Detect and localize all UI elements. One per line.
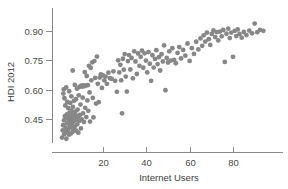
scatter-point	[131, 76, 136, 81]
scatter-point	[154, 48, 159, 53]
scatter-point	[162, 43, 167, 48]
scatter-point	[158, 68, 163, 73]
scatter-point	[70, 68, 75, 73]
scatter-point	[252, 21, 257, 26]
scatter-point	[170, 46, 175, 51]
y-axis-title: HDI 2012	[5, 62, 16, 102]
scatter-point	[100, 86, 105, 91]
scatter-point	[84, 74, 89, 79]
scatter-point	[183, 53, 188, 58]
scatter-point	[93, 76, 98, 81]
scatter-point	[144, 58, 149, 63]
x-tick-label: 20	[98, 157, 109, 168]
y-axis-ticks	[46, 32, 53, 120]
scatter-point	[76, 130, 81, 135]
scatter-point	[187, 59, 192, 64]
scatter-point	[124, 89, 129, 94]
scatter-point	[95, 81, 100, 86]
scatter-point	[206, 37, 211, 42]
scatter-point	[64, 136, 69, 141]
scatter-point	[160, 59, 165, 64]
scatter-point	[117, 70, 122, 75]
scatter-point	[231, 54, 236, 59]
y-axis-tick-labels: 0.450.600.750.90	[25, 26, 44, 125]
scatter-point	[78, 102, 83, 107]
scatter-point	[163, 88, 168, 93]
scatter-point	[181, 48, 186, 53]
scatter-point	[85, 98, 90, 103]
y-axis-group: 0.450.600.750.90 HDI 2012	[5, 8, 53, 143]
x-axis-ticks	[104, 147, 234, 153]
scatter-point	[86, 108, 91, 113]
scatter-point	[74, 97, 79, 102]
x-tick-label: 80	[228, 157, 239, 168]
scatter-point	[147, 61, 152, 66]
scatter-point	[119, 78, 124, 83]
scatter-point	[114, 89, 119, 94]
scatter-point	[227, 36, 232, 41]
scatter-point	[113, 78, 118, 83]
scatter-plot-figure: 0.450.600.750.90 HDI 2012 20406080 Inter…	[0, 0, 288, 189]
scatter-point	[105, 81, 110, 86]
scatter-point	[177, 45, 182, 50]
scatter-point	[149, 78, 154, 83]
scatter-point	[244, 33, 249, 38]
scatter-point	[192, 51, 197, 56]
x-axis-tick-labels: 20406080	[98, 157, 239, 168]
scatter-point	[145, 70, 150, 75]
scatter-point	[111, 69, 116, 74]
y-tick-label: 0.90	[25, 26, 44, 37]
scatter-point	[75, 107, 80, 112]
scatter-point	[81, 111, 86, 116]
scatter-point	[79, 126, 84, 131]
scatter-point	[88, 65, 93, 70]
scatter-point	[189, 46, 194, 51]
scatter-point	[87, 90, 92, 95]
scatter-point	[138, 54, 143, 59]
scatter-point-layer	[60, 21, 266, 141]
x-axis-group: 20406080 Internet Users	[52, 147, 283, 183]
scatter-point	[222, 60, 227, 65]
scatter-point	[82, 120, 87, 125]
scatter-point	[216, 38, 221, 43]
scatter-point	[179, 56, 184, 61]
scatter-point	[118, 62, 123, 67]
scatter-point	[224, 31, 229, 36]
scatter-point	[92, 59, 97, 64]
scatter-point	[64, 85, 69, 90]
scatter-point	[84, 115, 89, 120]
y-tick-label: 0.60	[25, 85, 44, 96]
scatter-point	[134, 72, 139, 77]
scatter-point	[133, 59, 138, 64]
scatter-point	[141, 65, 146, 70]
scatter-point	[128, 67, 133, 72]
scatter-point	[80, 95, 85, 100]
y-tick-label: 0.45	[25, 114, 44, 125]
y-tick-label: 0.75	[25, 55, 44, 66]
scatter-point	[175, 51, 180, 56]
scatter-point	[159, 52, 164, 57]
scatter-point	[91, 115, 96, 120]
scatter-point	[226, 26, 231, 31]
scatter-point	[194, 39, 199, 44]
scatter-point	[219, 34, 224, 39]
scatter-point	[250, 31, 255, 36]
scatter-point	[121, 56, 126, 61]
scatter-point	[196, 47, 201, 52]
scatter-point	[120, 111, 125, 116]
x-tick-label: 60	[185, 157, 196, 168]
scatter-point	[155, 62, 160, 67]
scatter-point	[146, 50, 151, 55]
scatter-point	[85, 83, 90, 88]
scatter-point	[122, 52, 127, 57]
scatter-point	[173, 61, 178, 66]
plot-canvas: 0.450.600.750.90 HDI 2012 20406080 Inter…	[0, 0, 288, 189]
scatter-point	[164, 56, 169, 61]
scatter-point	[95, 54, 100, 59]
scatter-point	[70, 104, 75, 109]
scatter-point	[88, 119, 93, 124]
scatter-point	[205, 30, 210, 35]
scatter-point	[116, 58, 121, 63]
scatter-point	[221, 28, 226, 33]
scatter-point	[200, 43, 205, 48]
